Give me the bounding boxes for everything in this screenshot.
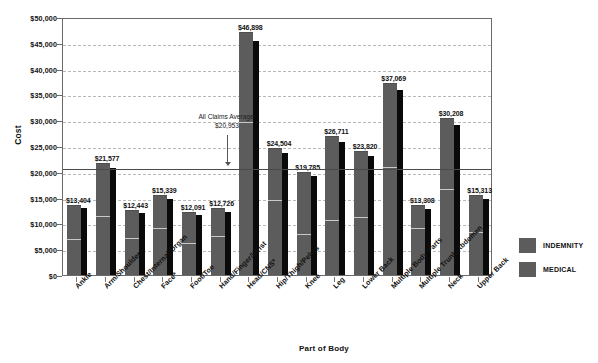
y-axis-tick-label: $20,000 [7, 169, 57, 178]
bar-group [96, 17, 118, 275]
y-axis-tick-label: $30,000 [7, 117, 57, 126]
bar-split-marker [125, 238, 139, 239]
bar-split-marker [411, 228, 425, 229]
legend-swatch-medical-icon [519, 262, 536, 277]
legend-item-indemnity: INDEMNITY [519, 238, 583, 253]
bar-split-marker [153, 228, 167, 229]
legend-label-medical: MEDICAL [543, 266, 576, 273]
bar-group [383, 17, 405, 275]
all-claims-average-arrow [227, 135, 228, 165]
legend-item-medical: MEDICAL [519, 262, 583, 277]
bar-front-indemnity [96, 163, 110, 275]
y-axis-tick-mark [56, 276, 62, 277]
bar-front-indemnity [383, 83, 397, 275]
bar-split-marker [354, 217, 368, 218]
bar-group [125, 17, 147, 275]
bar-split-marker [67, 239, 81, 240]
bar-group [67, 17, 89, 275]
bar-group [440, 17, 462, 275]
y-axis-tick-label: $35,000 [7, 91, 57, 100]
y-axis-tick-label: $10,000 [7, 220, 57, 229]
y-axis-tick-label: $40,000 [7, 66, 57, 75]
bar-split-marker [325, 220, 339, 221]
all-claims-average-line [63, 169, 491, 170]
bar-split-marker [211, 236, 225, 237]
legend-swatch-indemnity-icon [519, 238, 536, 253]
y-axis-tick-label: $5,000 [7, 246, 57, 255]
bar-split-marker [268, 200, 282, 201]
avg-callout-line1: All Claims Average: [172, 112, 282, 121]
y-axis-tick-label: $0 [7, 272, 57, 281]
bar-split-marker [96, 216, 110, 217]
bar-value-label: $15,313 [445, 187, 515, 194]
bar-front-indemnity [325, 136, 339, 275]
bar-group [211, 17, 233, 275]
y-axis-tick-label: $50,000 [7, 14, 57, 23]
y-axis-tick-label: $25,000 [7, 143, 57, 152]
bar-group [411, 17, 433, 275]
bar-group [153, 17, 175, 275]
bar-split-marker [297, 234, 311, 235]
bar-front-indemnity [67, 205, 81, 275]
legend-label-indemnity: INDEMNITY [543, 242, 583, 249]
y-axis-tick-label: $45,000 [7, 40, 57, 49]
y-axis-title: Cost [13, 105, 23, 165]
cost-by-part-of-body-chart: Cost $0$5,000$10,000$15,000$20,000$25,00… [0, 0, 598, 363]
plot-area: $13,404$21,577$12,443$15,339$12,091$12,7… [62, 18, 492, 276]
bar-group [297, 17, 319, 275]
x-axis-title: Part of Body [0, 344, 598, 353]
bar-front-indemnity [239, 32, 253, 275]
chart-legend: INDEMNITY MEDICAL [519, 238, 583, 286]
avg-callout-line2: $20,953 [172, 121, 282, 130]
all-claims-average-callout: All Claims Average: $20,953 [172, 112, 282, 130]
